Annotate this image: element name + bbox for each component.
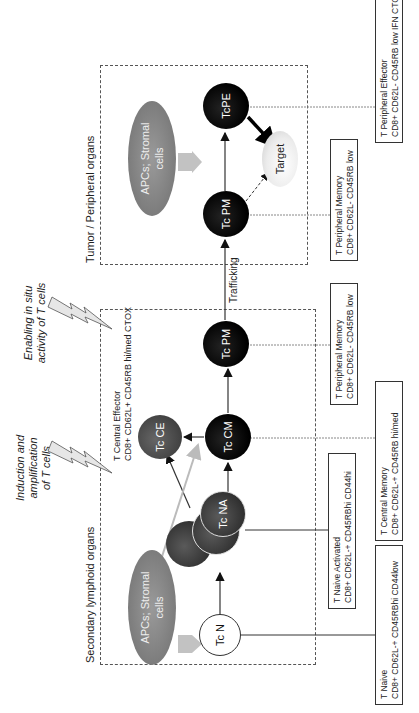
apc-stromal-cells-tumor: APCs; Stromal cells: [128, 101, 176, 216]
apc-stromal-cells-lymphoid: APCs; Stromal cells: [128, 550, 176, 665]
info-box-naive: T Naive CD8+ CD62L-+ CD45RBhi CD44low: [375, 545, 403, 705]
lightning-bolt-induction-icon: [48, 441, 112, 473]
cell-tc-pm-lymphoid: Tc PM: [203, 321, 249, 367]
info-box-central-memory: T Central Memory CD8+ CD62L-+ CD45RB hi/…: [375, 381, 403, 541]
arrow-tcpm-to-target: [246, 173, 268, 201]
cell-tc-pm-tumor: Tc PM: [203, 191, 249, 237]
cell-tc-cm: Tc CM: [205, 414, 251, 460]
central-effector-label: T Central Effector CD8+ CD62L+ CD45RB hi…: [112, 307, 134, 461]
info-box-peripheral-memory-tumor: T Peripheral Memory CD8+ CD62L- CD45RB l…: [330, 139, 358, 261]
apc-stimulation-arrow-right: [178, 151, 202, 173]
t-cell-differentiation-diagram: Secondary lymphoid organs Tumor / Periph…: [0, 0, 419, 713]
trafficking-label: Trafficking: [228, 257, 239, 303]
cell-tc-na: Tc NA: [200, 491, 246, 537]
target-cell: Target: [262, 131, 298, 187]
cell-tc-ce: Tc CE: [138, 415, 182, 459]
cell-tc-n: Tc N: [199, 614, 241, 656]
info-box-peripheral-memory-lymphoid: T Peripheral Memory CD8+ CD62L- CD45RB l…: [330, 283, 358, 405]
lightning-bolt-enabling-icon: [48, 297, 112, 329]
info-box-peripheral-effector: T Peripheral Effector CD8+ CD62L- CD45RB…: [375, 0, 403, 143]
info-box-naive-activated: T Naive Activated CD8+ CD62L-+ CD45RBhi …: [328, 453, 356, 609]
cell-tc-pe: TcPE: [203, 83, 249, 129]
